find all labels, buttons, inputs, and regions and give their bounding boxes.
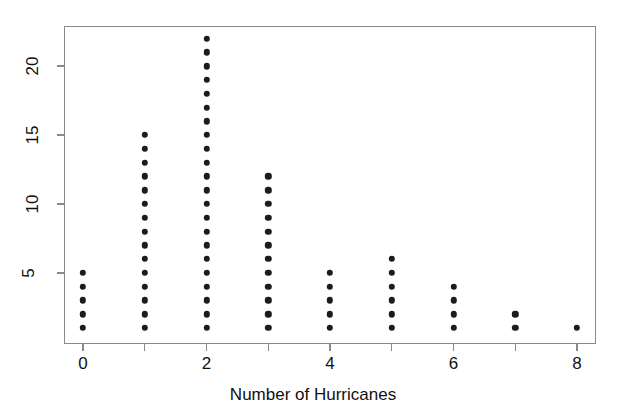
dot-plot-figure: 024685101520 Number of Hurricanes	[0, 0, 626, 420]
x-axis-title: Number of Hurricanes	[0, 385, 626, 405]
y-axis-tick	[57, 272, 64, 273]
x-axis-tick	[144, 344, 145, 351]
x-axis-tick-label: 6	[449, 354, 458, 374]
x-axis-tick	[329, 344, 330, 351]
x-axis-tick	[515, 344, 516, 351]
x-axis-tick-label: 8	[572, 354, 581, 374]
y-axis-tick-label: 15	[23, 126, 43, 145]
y-axis-tick-label: 10	[23, 195, 43, 214]
x-axis-tick	[453, 344, 454, 351]
x-axis-tick-label: 4	[325, 354, 334, 374]
y-axis-tick	[57, 203, 64, 204]
x-axis-tick	[268, 344, 269, 351]
y-axis-tick	[57, 65, 64, 66]
x-axis-tick	[391, 344, 392, 351]
x-axis-tick	[82, 344, 83, 351]
x-axis-tick-label: 2	[202, 354, 211, 374]
x-axis-tick	[576, 344, 577, 351]
y-axis-tick-label: 5	[19, 268, 39, 277]
y-axis-tick-label: 20	[23, 57, 43, 76]
x-axis-tick	[206, 344, 207, 351]
x-axis-tick-label: 0	[78, 354, 87, 374]
y-axis-tick	[57, 134, 64, 135]
plot-area-frame	[64, 26, 596, 344]
